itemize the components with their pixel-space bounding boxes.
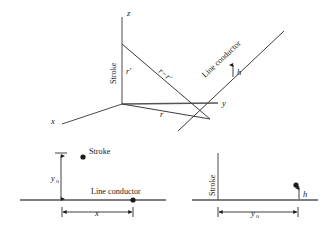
h-label-right: h xyxy=(303,189,307,199)
r-vector-label: r xyxy=(160,109,164,119)
y0-label-right: y xyxy=(250,208,255,218)
h-label-top: h xyxy=(237,67,241,77)
z-axis-label: z xyxy=(126,8,131,18)
bottom-left-diagram: Line conductor Stroke y o x xyxy=(20,147,166,218)
bottom-right-diagram: Stroke h y o xyxy=(192,153,318,219)
top-diagram: z x y r r′ r−r′ Stroke Line conductor h xyxy=(50,8,284,131)
x-axis-line xyxy=(62,104,122,124)
r-prime-label: r′ xyxy=(126,66,131,76)
x-axis-label: x xyxy=(50,116,55,126)
r-minus-r-prime-label: r−r′ xyxy=(157,66,174,83)
figure-root: z x y r r′ r−r′ Stroke Line conductor h xyxy=(0,0,328,229)
r-vector-line xyxy=(122,104,210,119)
stroke-label-right: Stroke xyxy=(208,174,217,196)
conductor-point-left xyxy=(130,197,135,202)
y0-label-left: y xyxy=(50,173,55,183)
y0-sub-left: o xyxy=(56,178,59,184)
figure-svg: z x y r r′ r−r′ Stroke Line conductor h xyxy=(0,0,328,229)
y-axis-line xyxy=(122,103,218,104)
x-label-left: x xyxy=(94,208,99,218)
stroke-point-left xyxy=(80,154,85,159)
stroke-label-top: Stroke xyxy=(109,62,118,84)
stroke-label-left: Stroke xyxy=(89,147,111,156)
r-minus-r-prime-line xyxy=(122,44,210,119)
y-axis-label: y xyxy=(221,98,226,108)
conductor-point-right xyxy=(293,182,298,187)
y0-sub-right: o xyxy=(256,213,259,219)
line-conductor-label-left: Line conductor xyxy=(91,187,141,196)
